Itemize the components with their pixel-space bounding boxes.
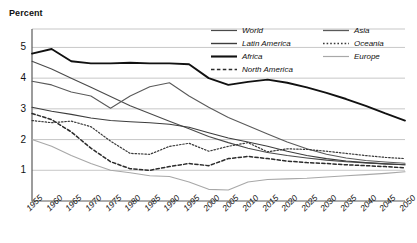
y-tick-5: 5 [8, 41, 26, 52]
chart-legend: WorldLatin AmericaAfricaNorth America As… [211, 24, 411, 86]
legend-label: North America [242, 65, 293, 74]
legend-item-africa[interactable]: Africa [211, 50, 293, 63]
legend-swatch-icon [211, 39, 237, 48]
legend-item-north-america[interactable]: North America [211, 63, 293, 76]
y-tick-3: 3 [8, 103, 26, 114]
legend-swatch-icon [323, 26, 349, 35]
legend-label: Europe [354, 52, 380, 61]
legend-swatch-icon [211, 65, 237, 74]
legend-item-world[interactable]: World [211, 24, 293, 37]
legend-item-oceania[interactable]: Oceania [323, 37, 384, 50]
legend-label: Latin America [242, 39, 291, 48]
y-tick-1: 1 [8, 164, 26, 175]
legend-swatch-icon [323, 52, 349, 61]
series-line-latin-america [32, 107, 405, 164]
y-tick-2: 2 [8, 134, 26, 145]
legend-swatch-icon [211, 26, 237, 35]
legend-label: Africa [242, 52, 262, 61]
legend-column-right: AsiaOceaniaEurope [323, 24, 384, 63]
legend-swatch-icon [211, 52, 237, 61]
legend-column-left: WorldLatin AmericaAfricaNorth America [211, 24, 293, 76]
legend-label: Asia [354, 26, 370, 35]
legend-item-asia[interactable]: Asia [323, 24, 384, 37]
legend-label: World [242, 26, 263, 35]
legend-item-latin-america[interactable]: Latin America [211, 37, 293, 50]
legend-swatch-icon [323, 39, 349, 48]
series-line-asia [32, 81, 405, 163]
legend-label: Oceania [354, 39, 384, 48]
legend-item-europe[interactable]: Europe [323, 50, 384, 63]
y-tick-4: 4 [8, 72, 26, 83]
